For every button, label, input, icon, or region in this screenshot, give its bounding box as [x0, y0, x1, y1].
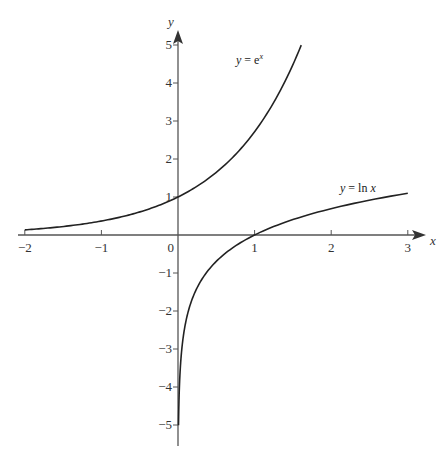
x-tick-label: 3	[405, 240, 412, 255]
y-axis-label: y	[166, 14, 174, 29]
y-tick-label: 3	[166, 113, 173, 128]
y-tick-label: −2	[158, 303, 172, 318]
y-tick-label: −3	[158, 341, 172, 356]
y-tick-label: −5	[158, 417, 172, 432]
y-tick-label: 1	[166, 189, 173, 204]
function-graph: −2−1123054321−1−2−3−4−5xyy = exy = ln x	[0, 0, 441, 459]
exp-curve-label: y = ex	[235, 52, 263, 67]
x-tick-label: 2	[328, 240, 335, 255]
labels: −2−1123054321−1−2−3−4−5xyy = exy = ln x	[18, 14, 436, 432]
exp-curve	[25, 45, 301, 230]
x-tick-label: −2	[18, 240, 32, 255]
y-tick-label: −4	[158, 379, 172, 394]
ln-curve-label: y = ln x	[339, 181, 376, 195]
y-tick-label: 2	[166, 151, 173, 166]
y-tick-label: 5	[166, 37, 173, 52]
y-tick-label: −1	[158, 265, 172, 280]
x-tick-label: −1	[94, 240, 108, 255]
origin-label: 0	[168, 240, 175, 255]
x-axis-label: x	[429, 233, 436, 248]
axes	[18, 30, 426, 446]
ln-curve	[179, 193, 408, 425]
y-tick-label: 4	[166, 75, 173, 90]
x-tick-label: 1	[251, 240, 258, 255]
